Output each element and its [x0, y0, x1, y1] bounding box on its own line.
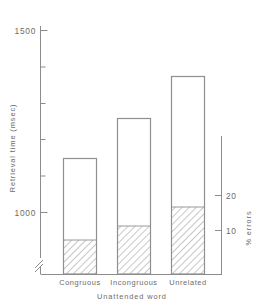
axis-break-marks	[35, 260, 43, 272]
y-axis-title: Retrieval time (msec)	[8, 104, 17, 193]
x-tick-label-congruous: Congruous	[59, 278, 101, 287]
y2-tick-label-20: 20	[226, 191, 237, 201]
y-tick-label-1000: 1000	[15, 208, 36, 218]
bar-incongruous[interactable]	[118, 119, 151, 275]
y-axis-left: 1500 1000 Retrieval time (msec)	[8, 26, 48, 275]
y-axis-right: 20 10 % errors	[215, 136, 253, 274]
x-axis-title: Unattended word	[97, 292, 167, 301]
x-tick-label-unrelated: Unrelated	[169, 278, 206, 287]
y-tick-label-1500: 1500	[15, 26, 36, 36]
bar-unrelated[interactable]	[172, 77, 205, 275]
y2-tick-label-10: 10	[226, 226, 237, 236]
x-axis: Congruous Incongruous Unrelated Unattend…	[41, 275, 223, 302]
bar-unrelated-error-hatch	[172, 207, 204, 274]
x-tick-label-incongruous: Incongruous	[110, 278, 157, 287]
bar-congruous-error-hatch	[64, 240, 96, 274]
bar-congruous[interactable]	[64, 159, 97, 275]
retrieval-time-bar-chart: 1500 1000 Retrieval time (msec)	[0, 0, 264, 306]
y2-axis-title: % errors	[244, 210, 253, 245]
chart-figure: 1500 1000 Retrieval time (msec)	[0, 0, 264, 306]
bars-group	[64, 77, 205, 275]
bar-incongruous-error-hatch	[118, 226, 150, 274]
